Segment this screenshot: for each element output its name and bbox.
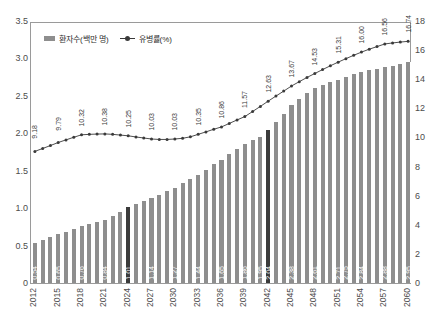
line-point-2028 <box>158 138 161 141</box>
line-point-2023 <box>119 134 122 137</box>
line-label-2042: 12.63 <box>265 75 272 93</box>
line-point-2025 <box>134 135 137 138</box>
line-point-2036 <box>220 125 223 128</box>
line-point-2031 <box>181 137 184 140</box>
y-tick-left: 0 <box>2 279 28 288</box>
line-label-2015: 9.79 <box>55 117 62 131</box>
line-point-2024 <box>127 134 130 137</box>
x-tick-2030: 2030 <box>169 288 178 307</box>
line-point-2014 <box>49 144 52 147</box>
legend-item-patients: 환자수(백만 명) <box>44 33 109 44</box>
y-tick-right: 8 <box>415 163 441 172</box>
line-point-2030 <box>173 138 176 141</box>
line-point-2045 <box>290 85 293 88</box>
line-point-2017 <box>72 136 75 139</box>
line-point-2015 <box>57 141 60 144</box>
line-label-2051: 15.31 <box>335 36 342 54</box>
line-point-2026 <box>142 136 145 139</box>
x-tick-2018: 2018 <box>76 288 85 307</box>
line-point-2029 <box>166 138 169 141</box>
x-tick-2012: 2012 <box>29 288 38 307</box>
line-point-2046 <box>298 80 301 83</box>
line-label-2030: 10.03 <box>171 113 178 131</box>
line-label-2033: 10.35 <box>195 108 202 126</box>
y-tick-right: 12 <box>415 104 441 113</box>
line-label-2021: 10.38 <box>101 108 108 126</box>
x-tick-2036: 2036 <box>216 288 225 307</box>
line-point-2048 <box>313 72 316 75</box>
y-tick-right: 16 <box>415 46 441 55</box>
x-tick-2033: 2033 <box>193 288 202 307</box>
y-tick-right: 18 <box>415 17 441 26</box>
line-point-2044 <box>282 90 285 93</box>
y-tick-left: 3.5 <box>2 17 28 26</box>
y-tick-right: 6 <box>415 192 441 201</box>
line-swatch-icon <box>120 35 135 42</box>
line-point-2052 <box>344 57 347 60</box>
line-point-2035 <box>212 128 215 131</box>
prevalence-polyline <box>35 41 408 151</box>
y-tick-left: 2.5 <box>2 92 28 101</box>
x-tick-2021: 2021 <box>99 288 108 307</box>
line-point-2019 <box>88 133 91 136</box>
chart-container: 00.51.01.52.02.53.03.5 024681012141618 0… <box>0 0 442 336</box>
line-point-2054 <box>360 51 363 54</box>
line-point-2056 <box>376 45 379 48</box>
line-point-2047 <box>306 76 309 79</box>
line-point-2038 <box>236 118 239 121</box>
line-point-2042 <box>267 100 270 103</box>
line-point-2051 <box>337 61 340 64</box>
line-label-2060: 16.74 <box>405 15 412 33</box>
line-point-2021 <box>103 132 106 135</box>
y-tick-right: 14 <box>415 75 441 84</box>
line-label-2039: 11.57 <box>241 91 248 108</box>
y-tick-left: 3.0 <box>2 54 28 63</box>
x-tick-2024: 2024 <box>123 288 132 307</box>
line-point-2033 <box>197 133 200 136</box>
x-tick-2042: 2042 <box>263 288 272 307</box>
legend-label-prevalence: 유병률(%) <box>139 33 172 44</box>
line-point-2032 <box>189 135 192 138</box>
y-tick-left: 1.0 <box>2 204 28 213</box>
line-point-2041 <box>259 105 262 108</box>
line-point-2057 <box>383 42 386 45</box>
y-tick-right: 0 <box>415 279 441 288</box>
line-label-2057: 16.56 <box>381 18 388 36</box>
line-point-2050 <box>329 64 332 67</box>
line-label-2024: 10.25 <box>125 110 132 128</box>
line-label-2045: 13.67 <box>288 60 295 78</box>
line-point-2043 <box>274 95 277 98</box>
line-point-2059 <box>399 41 402 44</box>
x-tick-2015: 2015 <box>53 288 62 307</box>
line-point-2049 <box>321 68 324 71</box>
line-point-2013 <box>41 147 44 150</box>
line-point-2022 <box>111 133 114 136</box>
x-tick-2045: 2045 <box>286 288 295 307</box>
y-tick-left: 2.0 <box>2 129 28 138</box>
x-tick-2039: 2039 <box>239 288 248 307</box>
line-label-2054: 16.00 <box>358 26 365 44</box>
line-point-2058 <box>391 41 394 44</box>
prevalence-line <box>31 23 412 285</box>
line-point-2053 <box>352 54 355 57</box>
line-point-2027 <box>150 138 153 141</box>
line-label-2048: 14.53 <box>311 48 318 66</box>
y-tick-right: 10 <box>415 133 441 142</box>
line-label-2036: 10.86 <box>218 101 225 119</box>
x-tick-2051: 2051 <box>333 288 342 307</box>
chart-legend: 환자수(백만 명) 유병률(%) <box>44 33 172 44</box>
x-tick-2027: 2027 <box>146 288 155 307</box>
line-point-2040 <box>251 110 254 113</box>
line-point-2018 <box>80 133 83 136</box>
y-tick-left: 1.5 <box>2 167 28 176</box>
y-tick-right: 4 <box>415 221 441 230</box>
x-tick-2057: 2057 <box>379 288 388 307</box>
line-point-2055 <box>368 48 371 51</box>
line-point-2039 <box>243 115 246 118</box>
line-point-2037 <box>228 122 231 125</box>
line-point-2016 <box>64 138 67 141</box>
legend-item-prevalence: 유병률(%) <box>120 33 172 44</box>
line-point-2012 <box>33 150 36 153</box>
y-tick-left: 0.5 <box>2 242 28 251</box>
line-point-2034 <box>204 130 207 133</box>
